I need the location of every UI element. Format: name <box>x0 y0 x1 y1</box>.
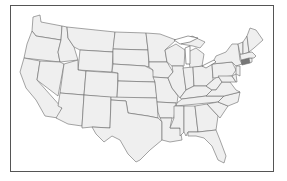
us-map <box>0 0 287 181</box>
lake-michigan <box>185 46 190 64</box>
state-new-jersey[interactable] <box>236 66 240 76</box>
state-kansas[interactable] <box>117 81 157 98</box>
state-north-dakota[interactable] <box>113 32 148 50</box>
state-new-york[interactable] <box>212 44 242 66</box>
state-florida[interactable] <box>188 130 226 163</box>
state-new-mexico[interactable] <box>82 95 111 128</box>
state-wyoming[interactable] <box>78 50 113 72</box>
state-colorado[interactable] <box>84 71 118 98</box>
state-maine[interactable] <box>247 28 263 52</box>
state-arkansas[interactable] <box>157 102 176 118</box>
